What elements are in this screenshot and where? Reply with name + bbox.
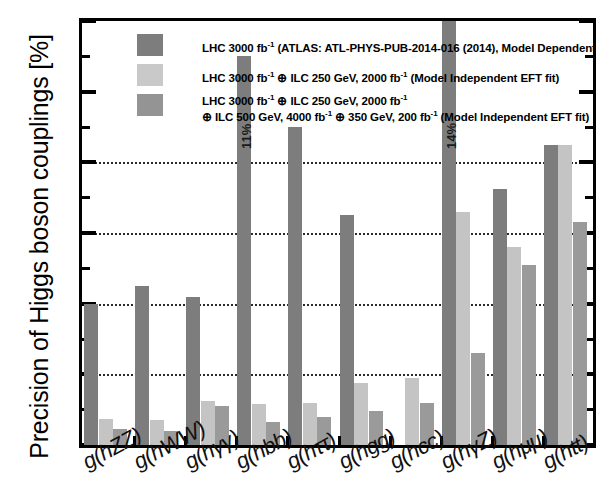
chart-root: Precision of Higgs boson couplings [%] 0… [0,0,603,504]
legend-swatch-ilc500 [137,94,163,116]
legend-swatch-ilc250 [137,64,163,86]
legend-label-lhc: LHC 3000 fb-1 (ATLAS: ATL-PHYS-PUB-2014-… [202,38,596,55]
legend: LHC 3000 fb-1 (ATLAS: ATL-PHYS-PUB-2014-… [82,21,593,445]
legend-label-ilc250: LHC 3000 fb-1 ⊕ ILC 250 GeV, 2000 fb-1 (… [202,68,559,85]
y-axis-title: Precision of Higgs boson couplings [%] [25,12,54,482]
legend-label-ilc500-line1: LHC 3000 fb-1 ⊕ ILC 250 GeV, 2000 fb-1 [202,91,407,108]
plot-area: 11%14% LHC 3000 fb-1 (ATLAS: ATL-PHYS-PU… [79,18,596,448]
legend-label-ilc500-line2: ⊕ ILC 500 GeV, 4000 fb-1 ⊕ 350 GeV, 200 … [202,107,589,124]
legend-swatch-lhc [137,34,163,56]
